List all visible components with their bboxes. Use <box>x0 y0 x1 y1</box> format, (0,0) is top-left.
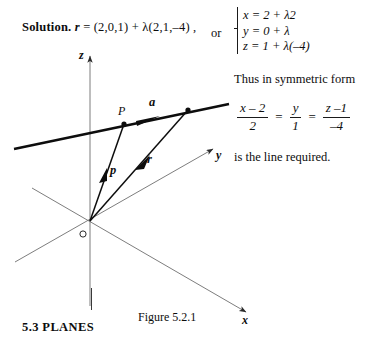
section-heading: 5.3 PLANES <box>22 320 94 335</box>
direction-vector-a-label: a <box>149 95 155 110</box>
point-P-label: P <box>118 104 125 119</box>
position-vector-r-label: r <box>147 152 152 167</box>
position-vector-r-line <box>90 110 188 221</box>
figure-page: Solution. r = (2,0,1) + λ(2,1,–4) , or x… <box>0 0 373 350</box>
vector-line-diagram <box>0 0 373 350</box>
position-vector-p-arrowhead <box>99 168 107 183</box>
y-axis-label: y <box>216 148 221 163</box>
direction-vector-a-arrowhead <box>136 116 160 126</box>
position-vector-p-label: p <box>110 163 116 178</box>
origin-marker <box>80 231 86 237</box>
margin-rule <box>91 288 92 310</box>
x-axis-label: x <box>242 313 248 328</box>
z-axis-label: z <box>79 48 84 63</box>
figure-caption: Figure 5.2.1 <box>138 310 196 325</box>
x-axis-line <box>32 188 246 312</box>
